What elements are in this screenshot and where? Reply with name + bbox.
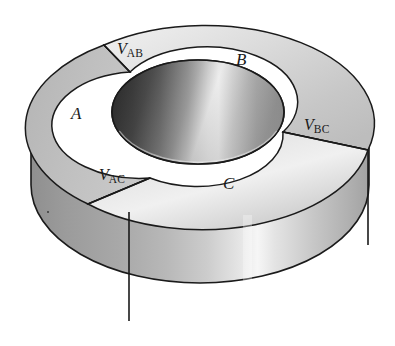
voltage-subscript-vbc: BC — [314, 123, 330, 135]
voltage-symbol-vbc: V — [304, 116, 314, 133]
voltage-label-vac: VAC — [99, 166, 125, 185]
inner-bore-hole — [112, 60, 284, 164]
segment-label-c: C — [223, 174, 235, 194]
ring-conductor-figure: A B C VAB VBC VAC — [0, 0, 395, 346]
scan-speck-artifact — [47, 211, 49, 213]
voltage-symbol-vab: V — [117, 40, 127, 57]
voltage-label-vbc: VBC — [304, 116, 330, 135]
voltage-label-vab: VAB — [117, 40, 143, 59]
voltage-subscript-vac: AC — [109, 173, 125, 185]
voltage-subscript-vab: AB — [127, 47, 143, 59]
wall-highlight — [243, 215, 252, 330]
segment-label-b: B — [236, 50, 247, 70]
voltage-symbol-vac: V — [99, 166, 109, 183]
ring-conductor-diagram — [0, 0, 395, 346]
segment-label-a: A — [71, 104, 82, 124]
